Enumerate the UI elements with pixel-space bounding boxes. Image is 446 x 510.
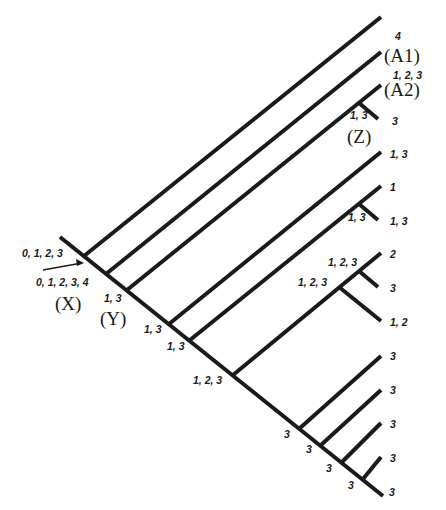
tip-label: 3 xyxy=(390,350,396,362)
branch-10 xyxy=(363,457,381,479)
tip-label: 3 xyxy=(390,384,396,396)
main-spine xyxy=(60,237,383,496)
node-z: (Z) xyxy=(347,126,371,148)
tip-label: 1, 3 xyxy=(390,215,408,227)
internal-label: 1, 2, 3 xyxy=(298,276,327,288)
tip-label: 3 xyxy=(392,115,398,127)
subbranch-6b xyxy=(359,271,378,287)
tip-label: 1, 2 xyxy=(390,316,408,328)
internal-label: 1, 2, 3 xyxy=(193,374,222,386)
tip-label: 3 xyxy=(390,452,396,464)
node-y: (Y) xyxy=(100,308,126,330)
cladogram: 0, 1, 2, 3 0, 1, 2, 3, 4 (X) (Y) (Z) (A1… xyxy=(0,0,446,510)
internal-label: 3 xyxy=(306,443,312,455)
node-a1: (A1) xyxy=(384,45,420,67)
tip-label: 4 xyxy=(394,30,401,42)
tip-label: 1 xyxy=(390,181,396,193)
internal-label: 1, 3 xyxy=(144,323,162,335)
tip-label: 1, 3 xyxy=(390,148,408,160)
arrow-head-icon xyxy=(76,259,84,266)
stem-label-root: 0, 1, 2, 3, 4 xyxy=(36,276,89,288)
internal-label: 1, 3 xyxy=(167,340,185,352)
tip-label: 1, 2, 3 xyxy=(393,69,422,81)
internal-label: 3 xyxy=(348,479,354,491)
tip-label: 3 xyxy=(389,486,395,498)
tip-label: 2 xyxy=(389,248,396,260)
internal-label-y: 1, 3 xyxy=(104,292,122,304)
internal-label: 1, 2, 3 xyxy=(328,256,357,268)
node-x: (X) xyxy=(55,293,81,315)
node-a2: (A2) xyxy=(384,79,420,101)
branch-a1 xyxy=(106,52,381,274)
subbranch-6a xyxy=(339,287,381,321)
branch-4 xyxy=(169,152,381,324)
tip-label: 3 xyxy=(390,418,396,430)
stem-label-incoming: 0, 1, 2, 3 xyxy=(22,247,63,259)
internal-label: 3 xyxy=(326,462,332,474)
branch-8 xyxy=(321,390,381,445)
branch-7 xyxy=(300,356,381,428)
internal-label: 1, 3 xyxy=(348,211,366,223)
branch-9 xyxy=(342,423,381,462)
internal-label: 3 xyxy=(284,428,290,440)
internal-label-z: 1, 3 xyxy=(350,109,368,121)
arrow-line xyxy=(43,263,82,270)
tip-label: 3 xyxy=(390,282,396,294)
